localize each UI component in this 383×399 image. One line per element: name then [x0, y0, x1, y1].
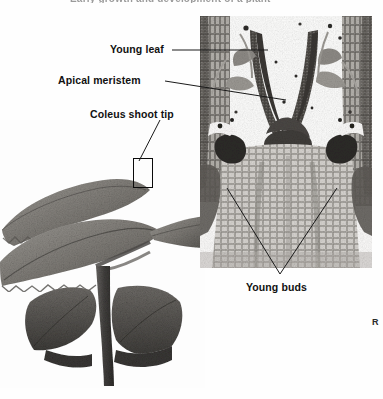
label-young-buds: Young buds — [246, 281, 307, 293]
shoot-apex-micrograph — [200, 16, 372, 268]
label-apical-meristem: Apical meristem — [58, 74, 141, 86]
label-young-leaf: Young leaf — [110, 43, 164, 55]
coleus-plant-photograph — [0, 120, 205, 388]
corner-mark: R — [372, 317, 379, 327]
shoot-tip-highlight-box — [133, 158, 153, 188]
figure-caption-cutoff: Early growth and development of a plant — [70, 0, 310, 3]
textbook-figure-shoot-apex: Early growth and development of a plant — [0, 0, 383, 399]
label-coleus-shoot-tip: Coleus shoot tip — [90, 108, 174, 120]
